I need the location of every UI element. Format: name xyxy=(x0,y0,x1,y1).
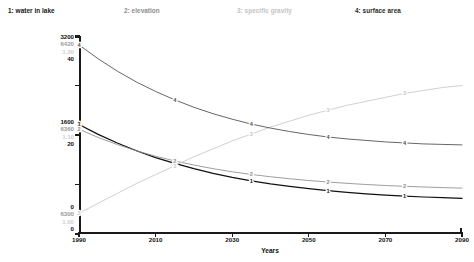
x-axis-tick-label: 2030 xyxy=(225,236,239,243)
x-axis-tick-label: 1990 xyxy=(72,236,86,243)
series-marker-3: 3 xyxy=(403,90,406,96)
series-marker-3: 3 xyxy=(173,163,176,169)
y-axis-labels-middle: 1600 6360 1.10 20 xyxy=(6,118,74,148)
y-label-gravity-mid: 1.10 xyxy=(6,133,74,140)
y-label-area-top: 40 xyxy=(6,55,74,62)
series-curves: 1111111111222222222233333333334444444444 xyxy=(79,36,462,234)
x-axis-tick-label: 2070 xyxy=(379,236,393,243)
y-label-water-bot: 0 xyxy=(6,203,74,210)
x-axis-tick-label: 2050 xyxy=(302,236,316,243)
series-marker-2: 2 xyxy=(250,171,253,177)
series-marker-4: 4 xyxy=(250,121,254,127)
y-axis-labels-top: 3200 6420 1.20 40 xyxy=(6,33,74,63)
legend-entry-specific-gravity: 3: specific gravity xyxy=(237,7,292,14)
legend-entry-water-in-lake: 1: water in lake xyxy=(8,7,55,14)
series-marker-2: 2 xyxy=(77,126,80,132)
y-label-elevation-top: 6420 xyxy=(6,40,74,47)
y-label-elevation-bot: 6300 xyxy=(6,210,74,217)
chart-container: 1: water in lake 2: elevation 3: specifi… xyxy=(0,0,474,262)
series-marker-3: 3 xyxy=(250,131,253,137)
series-line-2 xyxy=(79,129,462,188)
y-axis-labels-bottom: 0 6300 1.00 0 xyxy=(6,203,74,233)
x-axis-tick-label: 2010 xyxy=(149,236,163,243)
series-marker-3: 3 xyxy=(326,107,329,113)
series-marker-1: 1 xyxy=(326,188,329,194)
y-label-water-top: 3200 xyxy=(6,33,74,40)
plot-area: 1111111111222222222233333333334444444444 xyxy=(79,36,462,234)
series-marker-3: 3 xyxy=(77,210,80,216)
y-label-elevation-mid: 6360 xyxy=(6,125,74,132)
y-label-gravity-top: 1.20 xyxy=(6,48,74,55)
series-marker-2: 2 xyxy=(403,183,406,189)
y-label-gravity-bot: 1.00 xyxy=(6,218,74,225)
series-marker-4: 4 xyxy=(77,42,81,48)
x-axis-title: Years xyxy=(261,247,279,254)
series-marker-1: 1 xyxy=(250,178,253,184)
x-axis-tick-label: 2090 xyxy=(455,236,469,243)
series-marker-1: 1 xyxy=(403,193,406,199)
y-label-water-mid: 1600 xyxy=(6,118,74,125)
series-marker-4: 4 xyxy=(173,97,177,103)
y-label-area-bot: 0 xyxy=(6,225,74,232)
y-label-area-mid: 20 xyxy=(6,140,74,147)
legend-entry-elevation: 2: elevation xyxy=(124,7,160,14)
series-marker-2: 2 xyxy=(326,179,329,185)
legend-entry-surface-area: 4: surface area xyxy=(355,7,401,14)
chart-legend: 1: water in lake 2: elevation 3: specifi… xyxy=(0,0,474,26)
